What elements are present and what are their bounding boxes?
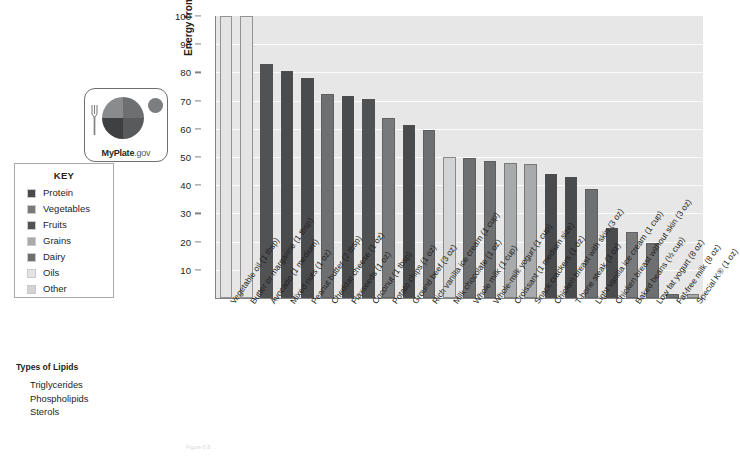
legend-item-label: Fruits — [43, 220, 67, 230]
legend-swatch — [27, 237, 36, 246]
y-tick-mark — [195, 44, 201, 45]
legend-title: KEY — [15, 170, 113, 181]
y-tick-mark — [195, 156, 201, 157]
bar[interactable] — [220, 16, 233, 298]
x-axis-labels: Vegetable oil (1 tbsp)Butter or margarin… — [215, 300, 702, 450]
plate-quadrant-fruits — [123, 97, 144, 118]
y-tick-mark — [195, 72, 201, 73]
bar[interactable] — [240, 16, 253, 298]
legend-swatch — [27, 221, 36, 230]
plate-quadrant-grains — [102, 118, 123, 139]
legend-item: Oils — [15, 265, 113, 281]
legend-item-label: Other — [43, 284, 67, 294]
legend-item-label: Oils — [43, 268, 59, 278]
dairy-cup-icon — [148, 98, 163, 113]
legend-swatch — [27, 269, 36, 278]
legend-item: Grains — [15, 233, 113, 249]
legend-item-label: Vegetables — [43, 204, 90, 214]
y-tick-mark — [195, 185, 201, 186]
myplate-logo: MyPlate.gov — [84, 88, 168, 162]
plate-quadrant-protein — [123, 118, 144, 139]
y-tick-label: 30 — [161, 208, 191, 219]
bar-slot — [236, 16, 256, 298]
y-axis-title: Energy from fat (%) — [183, 0, 194, 56]
plate-quadrant-vegetables — [102, 97, 123, 118]
plate-icon — [102, 97, 144, 139]
y-tick-mark — [195, 241, 201, 242]
legend-item: Other — [15, 281, 113, 297]
legend-item: Dairy — [15, 249, 113, 265]
legend-item: Fruits — [15, 217, 113, 233]
legend-swatch — [27, 253, 36, 262]
legend-items: ProteinVegetablesFruitsGrainsDairyOilsOt… — [15, 185, 113, 297]
legend-swatch — [27, 205, 36, 214]
y-tick-label: 10 — [161, 264, 191, 275]
myplate-wordmark: MyPlate.gov — [85, 148, 167, 158]
legend-item-label: Grains — [43, 236, 71, 246]
y-tick-mark — [195, 213, 201, 214]
figure-caption: Figure 6.8 ... — [186, 444, 616, 451]
y-tick-mark — [195, 15, 201, 16]
legend-item: Protein — [15, 185, 113, 201]
myplate-tld: .gov — [134, 148, 150, 158]
bar-slot — [216, 16, 236, 298]
y-tick-mark — [195, 269, 201, 270]
legend-item: Vegetables — [15, 201, 113, 217]
legend-item-label: Dairy — [43, 252, 65, 262]
y-tick-mark — [195, 128, 201, 129]
legend-item-label: Protein — [43, 188, 73, 198]
fork-icon — [91, 105, 98, 135]
y-tick-label: 40 — [161, 180, 191, 191]
legend-swatch — [27, 285, 36, 294]
y-tick-label: 80 — [161, 67, 191, 78]
y-tick-label: 20 — [161, 236, 191, 247]
y-tick-mark — [195, 100, 201, 101]
myplate-brand: MyPlate — [102, 148, 135, 158]
legend-swatch — [27, 189, 36, 198]
chart-legend: KEY ProteinVegetablesFruitsGrainsDairyOi… — [14, 163, 114, 298]
